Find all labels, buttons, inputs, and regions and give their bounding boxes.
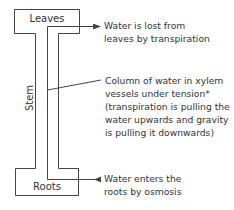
callout-line: vessels under tension* [105,88,210,99]
osmosis-callout: Water enters the roots by osmosis [104,173,182,197]
leaves-label: Leaves [30,13,65,24]
callout-line: water upwards and gravity [105,114,229,125]
osmosis-arrowhead-icon [94,177,101,183]
callout-line: Water enters the [104,173,182,184]
roots-label: Roots [33,181,61,192]
callout-line: roots by osmosis [104,186,182,197]
plant-water-transport-diagram: Leaves Stem Roots Water is lost from lea… [0,0,234,210]
transpiration-callout: Water is lost from leaves by transpirati… [104,20,210,44]
stem-label: Stem [24,85,35,111]
callout-line: (transpiration is pulling the [105,101,230,112]
callout-line: leaves by transpiration [104,33,210,44]
callout-line: Water is lost from [104,20,185,31]
callout-line: is pulling it downwards) [105,127,214,138]
callout-line: Column of water in xylem [105,75,223,86]
xylem-column-callout: Column of water in xylem vessels under t… [105,75,230,138]
